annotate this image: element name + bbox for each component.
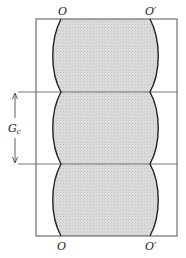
label-bottom-right-O-prime: O′ <box>145 240 157 253</box>
label-bottom-left-O: O <box>57 240 66 253</box>
label-top-right-O-prime: O′ <box>145 5 157 18</box>
shaded-band <box>53 19 159 236</box>
period-label: Gc <box>8 122 21 136</box>
label-top-left-O: O <box>58 5 67 18</box>
wavy-band-diagram: Gc O O′ O O′ <box>0 0 186 258</box>
